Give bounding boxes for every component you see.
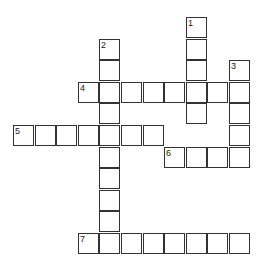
crossword-cell[interactable] (143, 82, 164, 103)
clue-number: 2 (101, 40, 106, 50)
crossword-grid: 1234567 (0, 0, 261, 273)
clue-number: 6 (166, 148, 171, 158)
crossword-cell[interactable] (207, 233, 228, 254)
clue-number: 4 (80, 83, 85, 93)
crossword-cell[interactable] (143, 233, 164, 254)
crossword-cell[interactable] (186, 82, 207, 103)
crossword-cell[interactable]: 1 (186, 17, 207, 38)
crossword-cell[interactable] (186, 233, 207, 254)
crossword-cell[interactable] (99, 211, 120, 232)
crossword-cell[interactable] (207, 147, 228, 168)
crossword-cell[interactable] (186, 103, 207, 124)
crossword-cell[interactable] (164, 82, 185, 103)
crossword-cell[interactable]: 5 (13, 125, 34, 146)
crossword-cell[interactable] (121, 82, 142, 103)
clue-number: 1 (188, 18, 193, 28)
crossword-cell[interactable] (121, 233, 142, 254)
crossword-cell[interactable] (99, 82, 120, 103)
crossword-cell[interactable] (186, 39, 207, 60)
crossword-cell[interactable] (229, 103, 250, 124)
crossword-cell[interactable]: 7 (78, 233, 99, 254)
crossword-cell[interactable] (186, 60, 207, 81)
crossword-cell[interactable] (207, 82, 228, 103)
crossword-cell[interactable] (35, 125, 56, 146)
clue-number: 5 (15, 126, 20, 136)
crossword-cell[interactable]: 3 (229, 60, 250, 81)
crossword-cell[interactable] (229, 125, 250, 146)
clue-number: 7 (80, 234, 85, 244)
crossword-cell[interactable] (99, 233, 120, 254)
crossword-cell[interactable] (99, 168, 120, 189)
crossword-cell[interactable] (56, 125, 77, 146)
crossword-cell[interactable] (143, 125, 164, 146)
crossword-cell[interactable] (121, 125, 142, 146)
crossword-cell[interactable] (164, 233, 185, 254)
crossword-cell[interactable]: 4 (78, 82, 99, 103)
crossword-cell[interactable] (186, 147, 207, 168)
crossword-cell[interactable] (99, 103, 120, 124)
crossword-cell[interactable] (99, 125, 120, 146)
crossword-cell[interactable] (229, 82, 250, 103)
crossword-cell[interactable] (78, 125, 99, 146)
crossword-cell[interactable]: 6 (164, 147, 185, 168)
clue-number: 3 (231, 61, 236, 71)
crossword-cell[interactable] (229, 233, 250, 254)
crossword-cell[interactable] (99, 60, 120, 81)
crossword-cell[interactable] (99, 147, 120, 168)
crossword-cell[interactable] (99, 190, 120, 211)
crossword-cell[interactable]: 2 (99, 39, 120, 60)
crossword-cell[interactable] (229, 147, 250, 168)
